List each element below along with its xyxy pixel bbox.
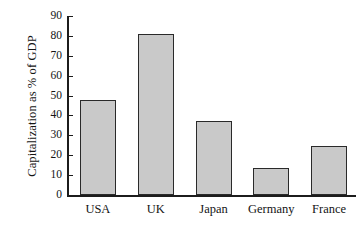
y-tick-label: 40 — [51, 110, 63, 122]
x-axis-category-label: Japan — [199, 202, 227, 216]
y-axis-line — [67, 16, 69, 197]
y-tick-label: 0 — [56, 189, 62, 201]
y-tick-label: 50 — [51, 90, 63, 102]
plot-area: 0102030405060708090 USAUKJapanGermanyFra… — [67, 16, 356, 197]
y-tick-mark — [69, 96, 73, 97]
y-tick-label: 60 — [51, 70, 63, 82]
bar — [138, 34, 174, 195]
bar-chart-figure: Capitalization as % of GDP 0102030405060… — [0, 0, 363, 229]
y-tick-label: 70 — [51, 50, 63, 62]
y-axis-title: Capitalization as % of GDP — [22, 11, 42, 201]
bar — [253, 168, 289, 195]
bar — [80, 100, 116, 195]
bar — [311, 146, 347, 195]
y-tick-mark — [69, 56, 73, 57]
y-tick-mark — [69, 115, 73, 116]
x-axis-line — [67, 195, 356, 197]
x-axis-category-label: USA — [85, 202, 110, 216]
x-axis-category-label: France — [312, 202, 346, 216]
y-tick-label: 30 — [51, 130, 63, 142]
y-tick-mark — [69, 135, 73, 136]
y-tick-label: 80 — [51, 30, 63, 42]
y-tick-mark — [69, 36, 73, 37]
y-tick-mark — [69, 175, 73, 176]
y-tick-mark — [69, 155, 73, 156]
x-axis-category-label: UK — [147, 202, 165, 216]
y-tick-label: 10 — [51, 169, 63, 181]
y-tick-mark — [69, 16, 73, 17]
y-tick-label: 90 — [51, 10, 63, 22]
x-axis-category-label: Germany — [248, 202, 295, 216]
y-tick-mark — [69, 76, 73, 77]
bar — [196, 121, 232, 195]
y-tick-label: 20 — [51, 149, 63, 161]
y-tick-mark — [69, 195, 73, 196]
